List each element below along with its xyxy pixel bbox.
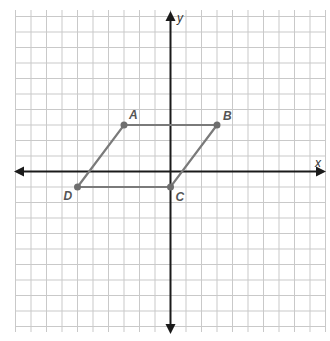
vertex-c-dot <box>167 184 174 191</box>
y-axis-label: y <box>176 11 184 25</box>
coordinate-plane: x y ABCD <box>0 0 330 341</box>
vertex-d-dot <box>74 184 81 191</box>
vertex-a-dot <box>121 122 128 129</box>
vertex-b-dot <box>214 122 221 129</box>
vertex-b-label: B <box>223 109 232 123</box>
vertex-c-label: C <box>176 190 185 204</box>
vertex-d-label: D <box>64 189 73 203</box>
x-axis-label: x <box>314 156 322 170</box>
y-axis-bottom-arrow-icon <box>166 324 176 334</box>
vertex-a-label: A <box>128 108 138 122</box>
